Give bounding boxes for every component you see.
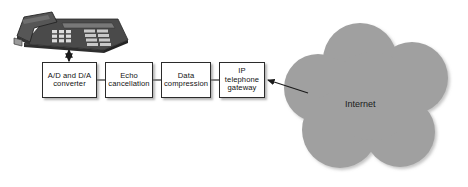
process-box-ip-telephone-gateway[interactable]: IP telephone gateway xyxy=(219,62,265,98)
process-box-label: A/D and D/A converter xyxy=(48,72,91,89)
process-box-label: IP telephone gateway xyxy=(225,67,259,93)
diagram-canvas: A/D and D/A converter Echo cancellation … xyxy=(0,0,468,187)
desk-telephone-icon xyxy=(14,12,128,53)
internet-cloud-label: Internet xyxy=(345,99,376,109)
process-box-label: Data compression xyxy=(164,72,208,89)
process-box-echo-cancellation[interactable]: Echo cancellation xyxy=(105,62,153,98)
process-box-label: Echo cancellation xyxy=(108,72,149,89)
process-box-ad-da-converter[interactable]: A/D and D/A converter xyxy=(42,62,97,98)
process-box-data-compression[interactable]: Data compression xyxy=(161,62,211,98)
internet-cloud xyxy=(284,23,448,168)
